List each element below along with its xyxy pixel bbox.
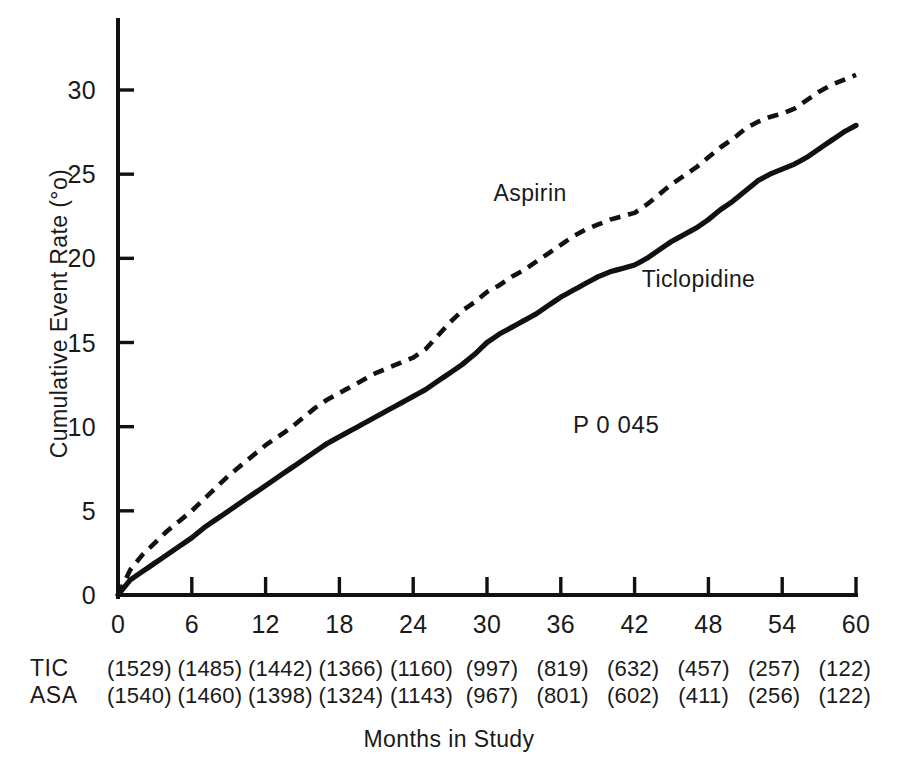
y-tick-label-5: 5 [82,497,96,525]
series-line-ticlopidine [118,125,856,595]
x-tick-label-6: 6 [185,610,199,638]
x-tick-label-42: 42 [620,610,648,638]
at-risk-cell: (256) [739,683,810,709]
data-series [118,75,856,595]
at-risk-cell: (1143) [386,683,457,709]
at-risk-cell: (1366) [316,656,387,682]
at-risk-cell: (1398) [245,683,316,709]
x-tick-label-30: 30 [473,610,501,638]
at-risk-cell: (1160) [386,656,457,682]
at-risk-cell: (632) [598,656,669,682]
x-tick-labels: 06121824303642485460 [111,610,870,638]
at-risk-cell: (122) [809,683,880,709]
x-tick-label-54: 54 [768,610,796,638]
at-risk-cell: (1529) [104,656,175,682]
x-axis-title: Months in Study [0,726,898,753]
at-risk-cell: (1442) [245,656,316,682]
x-tick-label-48: 48 [694,610,722,638]
x-tick-label-0: 0 [111,610,125,638]
at-risk-cell: (967) [457,683,528,709]
x-tick-label-36: 36 [547,610,575,638]
at-risk-cell: (122) [809,656,880,682]
x-tick-marks [192,577,856,595]
y-axis-title: Cumulative Event Rate (°o) [46,149,73,479]
at-risk-cell: (1324) [316,683,387,709]
x-tick-label-60: 60 [842,610,870,638]
row-values-tic: (1529)(1485)(1442)(1366)(1160)(997)(819)… [104,656,880,682]
annotation-p-0-045: P 0 045 [573,411,660,438]
figure-container: 051015202530 06121824303642485460 Aspiri… [0,0,898,773]
x-tick-label-18: 18 [325,610,353,638]
row-values-asa: (1540)(1460)(1398)(1324)(1143)(967)(801)… [104,683,880,709]
y-tick-marks [118,90,134,511]
y-tick-label-30: 30 [68,76,96,104]
table-row: ASA (1540)(1460)(1398)(1324)(1143)(967)(… [30,682,880,709]
at-risk-cell: (257) [739,656,810,682]
chart-annotations: AspirinTiclopidineP 0 045 [493,180,755,438]
series-line-aspirin [118,75,856,595]
at-risk-cell: (602) [598,683,669,709]
at-risk-cell: (1540) [104,683,175,709]
at-risk-cell: (819) [527,656,598,682]
at-risk-cell: (457) [668,656,739,682]
row-label-tic: TIC [30,655,104,682]
at-risk-cell: (1460) [175,683,246,709]
annotation-aspirin: Aspirin [493,180,566,206]
x-tick-label-12: 12 [251,610,279,638]
table-row: TIC (1529)(1485)(1442)(1366)(1160)(997)(… [30,655,880,682]
at-risk-cell: (801) [527,683,598,709]
at-risk-table: TIC (1529)(1485)(1442)(1366)(1160)(997)(… [30,655,880,709]
x-tick-label-24: 24 [399,610,427,638]
row-label-asa: ASA [30,682,104,709]
at-risk-cell: (411) [668,683,739,709]
y-tick-label-0: 0 [82,581,96,609]
at-risk-cell: (1485) [175,656,246,682]
at-risk-cell: (997) [457,656,528,682]
annotation-ticlopidine: Ticlopidine [642,266,756,292]
